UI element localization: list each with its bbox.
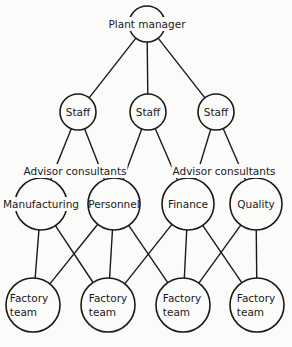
department-label-quality: Quality [237, 197, 275, 211]
department-label-finance: Finance [168, 197, 208, 211]
connector-line [50, 224, 98, 284]
factory-team-label-1: Factory team [10, 291, 48, 319]
connector-line [125, 224, 172, 283]
staff-label-1: Staff [66, 105, 90, 119]
connector-line [89, 38, 136, 98]
connector-line [110, 230, 113, 278]
factory-team-line1: Factory [89, 291, 127, 305]
factory-team-line1: Factory [163, 291, 201, 305]
staff-label-3: Staff [204, 105, 228, 119]
factory-team-label-3: Factory team [163, 291, 201, 319]
advisor-consultants-label-left: Advisor consultants [22, 164, 127, 178]
factory-team-line2: team [237, 305, 275, 319]
factory-team-line2: team [89, 305, 127, 319]
connector-line [184, 230, 186, 278]
connector-line [203, 225, 242, 282]
connector-line [158, 38, 205, 98]
connector-line [199, 225, 241, 283]
plant-manager-label: Plant manager [108, 17, 187, 31]
factory-team-label-4: Factory team [237, 291, 275, 319]
factory-team-line1: Factory [237, 291, 275, 305]
connector-line [147, 42, 148, 94]
department-label-manufacturing: Manufacturing [2, 197, 80, 211]
factory-team-line2: team [163, 305, 201, 319]
department-label-personnel: Personnel [88, 197, 139, 211]
factory-team-line1: Factory [10, 291, 48, 305]
staff-label-2: Staff [136, 105, 160, 119]
advisor-consultants-label-right: Advisor consultants [171, 164, 276, 178]
connector-line [35, 230, 39, 278]
factory-team-line2: team [10, 305, 48, 319]
factory-team-label-2: Factory team [89, 291, 127, 319]
connector-lines [35, 38, 257, 284]
